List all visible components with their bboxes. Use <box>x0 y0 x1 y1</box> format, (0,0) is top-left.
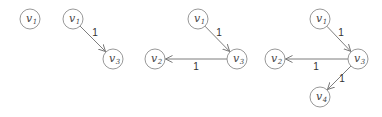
node-v1: v1 <box>20 9 40 29</box>
node-v1: v1 <box>63 9 83 29</box>
node-v4: v4 <box>310 87 330 107</box>
node-v2: v2 <box>265 49 285 69</box>
node-v1: v1 <box>188 9 208 29</box>
node-v1: v1 <box>310 9 330 29</box>
edge-weight: 1 <box>338 27 344 38</box>
node-v3: v3 <box>227 49 247 69</box>
edge-weight: 1 <box>92 27 98 38</box>
edge-weight: 1 <box>313 61 319 72</box>
node-v2: v2 <box>145 49 165 69</box>
edge-weight: 1 <box>339 73 345 84</box>
nodes-layer: v1v1v3v1v3v2v1v3v2v4 <box>20 9 368 107</box>
graph-diagram: v1v1v3v1v3v2v1v3v2v4 111111 <box>0 0 382 117</box>
edge-weight: 1 <box>193 61 199 72</box>
edge-weight: 1 <box>216 27 222 38</box>
weights-layer: 111111 <box>92 27 345 84</box>
node-v3: v3 <box>348 49 368 69</box>
node-v3: v3 <box>103 49 123 69</box>
